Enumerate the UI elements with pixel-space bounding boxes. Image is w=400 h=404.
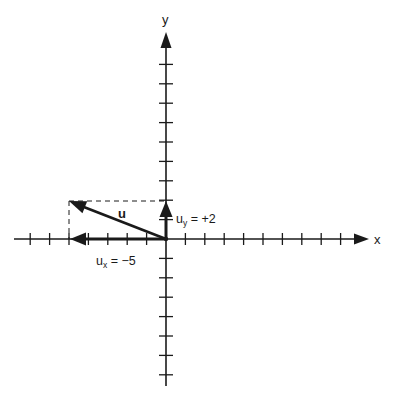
vector-diagram: x y u uy = +2 ux = −5 [0,0,400,404]
ux-label: ux = −5 [96,254,136,270]
vector-u-label: u [118,206,126,221]
y-axis: y [159,12,173,386]
x-axis-arrow-icon [354,234,369,245]
x-axis-label: x [374,232,381,247]
y-axis-arrow-icon [161,32,172,48]
uy-label: uy = +2 [176,212,216,228]
y-axis-label: y [162,12,169,27]
x-axis: x [14,232,381,247]
